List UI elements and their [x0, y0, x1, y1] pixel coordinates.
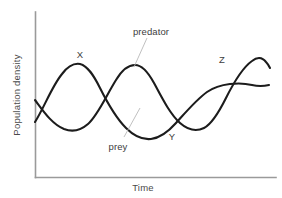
plot-canvas: Time Population density predator prey X …	[0, 0, 282, 198]
predator-label: predator	[133, 26, 169, 37]
point-label-x: X	[77, 49, 84, 60]
x-axis-label: Time	[132, 182, 154, 193]
point-label-z: Z	[219, 54, 225, 65]
prey-curve	[35, 64, 269, 139]
prey-label: prey	[109, 141, 128, 152]
point-label-y: Y	[169, 131, 176, 142]
y-axis-label: Population density	[11, 54, 22, 135]
predator-curve	[35, 58, 270, 130]
predator-leader-line	[134, 38, 147, 67]
population-density-figure: Time Population density predator prey X …	[0, 0, 282, 198]
